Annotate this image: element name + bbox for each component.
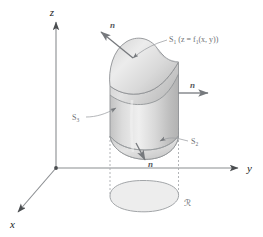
s2-subscript: 2 (195, 141, 198, 147)
normal-label-top: n (110, 20, 115, 30)
s1-equation-close: (x, y)) (198, 35, 218, 44)
figure-container: z y x n n n S1(z = f1(x, y)) S3 (0, 0, 263, 237)
surface-label-s1: S1(z = f1(x, y)) (169, 35, 219, 45)
surface-label-s2: S2 (191, 137, 198, 147)
s1-subscript: 1 (173, 39, 176, 45)
region-blob (110, 181, 179, 212)
diagram-svg: z y x n n n S1(z = f1(x, y)) S3 (0, 0, 263, 237)
x-axis-label: x (9, 218, 15, 230)
surface-label-s3: S3 (72, 113, 79, 123)
z-axis-label: z (49, 6, 55, 18)
normal-label-bottom: n (148, 159, 153, 169)
region-projection (110, 181, 179, 212)
x-axis (18, 168, 56, 212)
region-label: ℛ (184, 198, 191, 208)
svg-text:S2: S2 (191, 137, 198, 147)
s1-equation-open: (z = f (178, 35, 196, 44)
solid-body (110, 38, 179, 159)
normal-label-side: n (190, 80, 195, 90)
svg-text:S1(z = f1(x, y)): S1(z = f1(x, y)) (169, 35, 219, 45)
s3-subscript: 3 (76, 117, 79, 123)
origin-marker (54, 166, 58, 170)
svg-text:S3: S3 (72, 113, 79, 123)
y-axis-label: y (246, 162, 252, 174)
